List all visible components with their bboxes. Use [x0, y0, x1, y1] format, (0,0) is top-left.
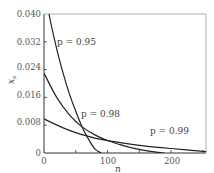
x-axis-label: n	[115, 164, 121, 173]
y-tick-0.008: 0.008	[17, 117, 41, 127]
annotation-p098: p = 0.98	[81, 109, 120, 119]
svg-text:xs: xs	[6, 76, 17, 84]
x-tick-100: 100	[100, 156, 116, 166]
y-tick-0: 0	[36, 148, 41, 158]
y-tick-0.032: 0.032	[17, 37, 41, 47]
x-tick-0: 0	[41, 156, 46, 166]
annotation-p095: p = 0.95	[57, 37, 96, 47]
y-tick-0.024: 0.024	[17, 62, 41, 72]
y-tick-0.016: 0.016	[17, 90, 41, 100]
annotation-p099: p = 0.99	[150, 126, 189, 136]
x-tick-200: 200	[164, 156, 180, 166]
curve-p095	[44, 0, 101, 153]
axis-ticks	[44, 42, 203, 153]
y-axis-label: xs	[6, 76, 17, 84]
chart: 0.040 0.032 0.024 0.016 0.008 0 0 100 20…	[0, 0, 214, 173]
y-tick-0.040: 0.040	[17, 9, 41, 19]
